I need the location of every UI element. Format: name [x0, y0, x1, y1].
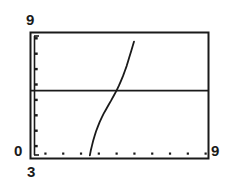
y-axis-min-label: 0 — [14, 143, 22, 158]
y-axis-max-label: 9 — [26, 12, 34, 27]
chart-container: 9 0 3 9 — [0, 0, 227, 190]
x-axis-min-label: 3 — [27, 164, 35, 179]
x-axis-max-label: 9 — [211, 143, 219, 158]
chart-canvas — [0, 0, 227, 190]
